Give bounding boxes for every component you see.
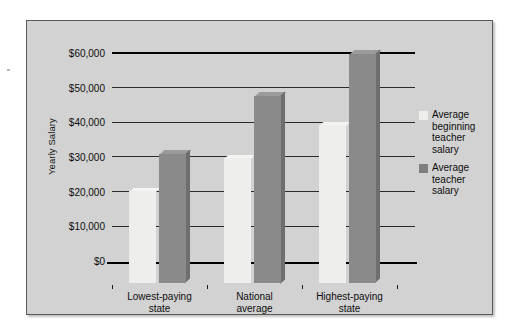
legend-label-line: teacher xyxy=(432,174,491,186)
y-tick-label: $10,000 xyxy=(43,221,105,232)
legend-label: Average teacher salary xyxy=(432,162,491,197)
bar-national-average-beginning xyxy=(224,158,251,283)
x-tick xyxy=(112,285,113,289)
legend-swatch-icon xyxy=(419,111,428,120)
legend-entry-beginning-salary: Average beginning teacher salary xyxy=(419,109,491,155)
bar-lowest-paying-beginning xyxy=(129,191,156,283)
legend-label-line: salary xyxy=(432,144,491,156)
x-label-line: Highest-paying xyxy=(302,291,397,303)
x-label-national-average: National average xyxy=(207,291,302,315)
x-axis-tick-labels: Lowest-paying state National average Hig… xyxy=(112,285,412,325)
x-label-line: state xyxy=(302,303,397,315)
bar-highest-paying-beginning xyxy=(319,125,346,283)
y-tick-label: $0 xyxy=(43,256,105,267)
bars-container xyxy=(112,33,412,283)
legend-label-line: Average xyxy=(432,109,491,121)
bar-national-average-average xyxy=(254,96,281,284)
plot-area: Yearly Salary $60,000 $50,000 $40,000 $3… xyxy=(27,21,494,316)
legend-label-line: teacher xyxy=(432,132,491,144)
y-tick-label: $60,000 xyxy=(43,48,105,59)
bar-face xyxy=(224,158,251,283)
bar-face xyxy=(349,54,376,283)
y-tick-label: $50,000 xyxy=(43,82,105,93)
x-tick xyxy=(207,285,208,289)
bar-highest-paying-average xyxy=(349,54,376,283)
y-axis-tick-labels: $60,000 $50,000 $40,000 $30,000 $20,000 … xyxy=(43,21,105,316)
x-label-highest-paying-state: Highest-paying state xyxy=(302,291,397,315)
bar-face xyxy=(129,191,156,283)
scan-speck xyxy=(7,69,10,71)
x-label-line: National xyxy=(207,291,302,303)
legend-label: Average beginning teacher salary xyxy=(432,109,491,155)
y-tick-label: $30,000 xyxy=(43,152,105,163)
bar-face xyxy=(254,96,281,284)
x-label-line: Lowest-paying xyxy=(112,291,207,303)
y-tick-label: $40,000 xyxy=(43,117,105,128)
legend-swatch-icon xyxy=(419,164,428,173)
bar-face xyxy=(319,125,346,283)
chart-frame: Yearly Salary $60,000 $50,000 $40,000 $3… xyxy=(26,20,493,315)
legend-label-line: beginning xyxy=(432,121,491,133)
legend-entry-average-salary: Average teacher salary xyxy=(419,162,491,197)
x-label-lowest-paying-state: Lowest-paying state xyxy=(112,291,207,315)
bar-face xyxy=(159,154,186,283)
bar-lowest-paying-average xyxy=(159,154,186,283)
x-tick xyxy=(397,285,398,289)
legend-label-line: Average xyxy=(432,162,491,174)
x-label-line: state xyxy=(112,303,207,315)
legend-label-line: salary xyxy=(432,185,491,197)
chart-legend: Average beginning teacher salary Average… xyxy=(419,109,491,204)
y-tick-label: $20,000 xyxy=(43,186,105,197)
x-tick xyxy=(302,285,303,289)
x-label-line: average xyxy=(207,303,302,315)
